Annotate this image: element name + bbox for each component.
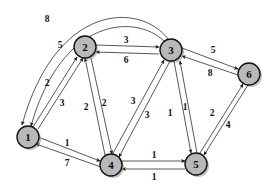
edge-4-3 [112, 60, 164, 155]
weight-label-3-4: 3 [145, 110, 150, 120]
weight-label-4-2: 2 [84, 102, 89, 112]
node-2-label: 2 [82, 41, 88, 53]
node-6[interactable]: 6 [238, 63, 262, 87]
edge-5-6 [200, 84, 243, 153]
edge-1-2-a [33, 57, 77, 127]
weight-label-2-4: 2 [102, 98, 107, 108]
node-2[interactable]: 2 [74, 36, 98, 60]
node-layer: 1 2 3 4 5 [17, 36, 262, 178]
weight-label-3-6: 5 [211, 45, 216, 55]
node-5[interactable]: 5 [185, 153, 209, 177]
graph-figure: 1 2 3 4 5 [0, 0, 275, 187]
edge-1-2-b [38, 58, 83, 129]
node-6-label: 6 [246, 68, 252, 80]
weight-label-3-2: 6 [124, 55, 129, 65]
node-4[interactable]: 4 [100, 154, 124, 178]
graph-canvas: 1 2 3 4 5 [0, 0, 275, 187]
weight-label-3-5: 1 [168, 108, 173, 118]
weight-label-2-3: 3 [124, 35, 129, 45]
node-1-label: 1 [25, 131, 31, 143]
edge-3-4 [119, 61, 170, 157]
weight-label-4-1: 7 [65, 158, 70, 168]
node-5-label: 5 [193, 158, 199, 170]
weight-label-3-1-inner: 5 [58, 40, 63, 50]
weight-label-6-5: 4 [226, 120, 231, 130]
weight-label-5-3: 1 [183, 102, 188, 112]
weight-label-1-4: 1 [65, 138, 70, 148]
weight-label-5-4: 1 [152, 172, 157, 182]
node-3-label: 3 [168, 44, 174, 56]
edge-3-2 [96, 52, 159, 54]
weight-label-6-3: 8 [208, 68, 213, 78]
weight-label-4-3: 3 [131, 96, 136, 106]
edge-layer [22, 17, 248, 169]
node-3[interactable]: 3 [160, 39, 184, 63]
weight-label-4-5: 1 [152, 150, 157, 160]
weight-label-5-6: 2 [210, 108, 215, 118]
weight-label-1-2-a: 2 [45, 78, 50, 88]
node-4-label: 4 [108, 159, 114, 171]
node-1[interactable]: 1 [17, 126, 41, 150]
edge-2-3 [96, 45, 159, 47]
weight-label-1-2-b: 3 [60, 98, 65, 108]
weight-label-3-1-outer: 8 [45, 14, 50, 24]
